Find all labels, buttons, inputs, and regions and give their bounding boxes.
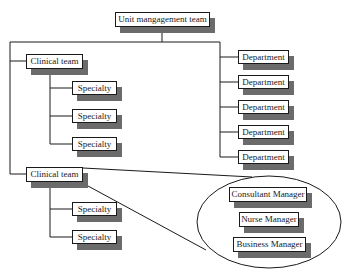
node-label: Specialty <box>72 202 117 216</box>
node-label: Business Manager <box>233 237 306 252</box>
specialty-node: Specialty <box>72 109 117 123</box>
node-label: Department <box>238 100 289 114</box>
node-label: Department <box>238 125 289 139</box>
department-node: Department <box>238 125 289 139</box>
specialty-node: Specialty <box>72 230 117 244</box>
node-label: Consultant Manager <box>229 187 307 202</box>
nurse-manager-node: Nurse Manager <box>239 212 299 227</box>
unit-management-team-node: Unit mangagement team <box>115 12 210 27</box>
node-label: Clinical team <box>26 167 83 182</box>
node-label: Specialty <box>72 81 117 95</box>
specialty-node: Specialty <box>72 202 117 216</box>
clinical-team-node: Clinical team <box>26 54 83 69</box>
specialty-node: Specialty <box>72 137 117 151</box>
node-label: Specialty <box>72 230 117 244</box>
consultant-manager-node: Consultant Manager <box>229 187 307 202</box>
node-label: Specialty <box>72 109 117 123</box>
node-label: Department <box>238 150 289 164</box>
node-label: Unit mangagement team <box>115 12 210 27</box>
node-label: Department <box>238 75 289 89</box>
node-label: Specialty <box>72 137 117 151</box>
node-label: Nurse Manager <box>239 212 299 227</box>
business-manager-node: Business Manager <box>233 237 306 252</box>
clinical-team-node: Clinical team <box>26 167 83 182</box>
department-node: Department <box>238 150 289 164</box>
department-node: Department <box>238 100 289 114</box>
node-label: Department <box>238 50 289 64</box>
specialty-node: Specialty <box>72 81 117 95</box>
department-node: Department <box>238 50 289 64</box>
node-label: Clinical team <box>26 54 83 69</box>
department-node: Department <box>238 75 289 89</box>
